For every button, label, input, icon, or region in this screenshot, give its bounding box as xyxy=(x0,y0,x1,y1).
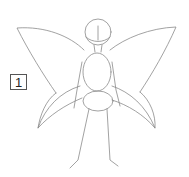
right-upper-wing xyxy=(110,27,176,92)
right-leg xyxy=(107,109,118,166)
left-arm xyxy=(74,62,82,108)
hips xyxy=(83,91,113,111)
right-lower-wing xyxy=(112,86,155,128)
torso xyxy=(83,53,111,91)
left-leg xyxy=(70,109,89,168)
fairy-sketch xyxy=(0,0,189,177)
left-upper-wing xyxy=(17,28,84,93)
